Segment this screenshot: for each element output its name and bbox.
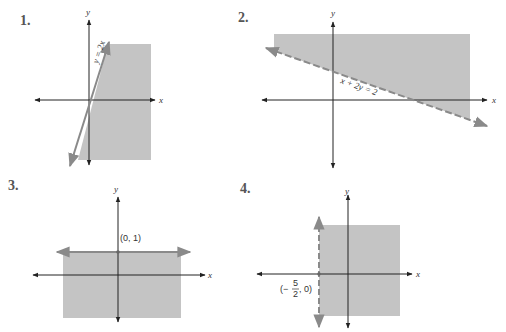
y-axis-label-4: y: [344, 186, 349, 196]
shaded-region-3: [63, 252, 181, 318]
y-axis-label-1: y: [85, 7, 90, 17]
shaded-region-4: [319, 225, 400, 316]
point-label-4: (− 5 2 , 0): [280, 278, 312, 299]
problem-number-1: 1.: [20, 13, 31, 28]
x-axis-label-3: x: [207, 270, 212, 280]
graph-3: 3. x y (0, 1): [8, 178, 212, 322]
point-label-4-numerator: 5: [293, 278, 298, 288]
y-axis-label-2: y: [330, 8, 335, 18]
point-marker-3: [116, 250, 120, 254]
inequality-graphs: 1. x y y = 2x 2. x y x + 2y = 2 3. x y (…: [0, 0, 506, 332]
point-label-3: (0, 1): [120, 233, 141, 243]
point-label-4-denominator: 2: [293, 289, 298, 299]
problem-number-4: 4.: [240, 181, 251, 196]
x-axis-label-1: x: [158, 95, 163, 105]
shaded-region-2: [274, 34, 470, 120]
x-axis-label-4: x: [415, 269, 420, 279]
point-label-4-close: , 0): [299, 284, 312, 294]
x-axis-label-2: x: [491, 95, 496, 105]
point-label-4-open: (−: [280, 284, 288, 294]
problem-number-3: 3.: [8, 178, 19, 193]
graph-1: 1. x y y = 2x: [20, 7, 163, 166]
problem-number-2: 2.: [238, 10, 249, 25]
y-axis-label-3: y: [113, 184, 118, 194]
graph-4: 4. x y (− 5 2 , 0): [240, 181, 420, 328]
graph-2: 2. x y x + 2y = 2: [238, 8, 496, 168]
point-marker-4: [317, 272, 321, 276]
